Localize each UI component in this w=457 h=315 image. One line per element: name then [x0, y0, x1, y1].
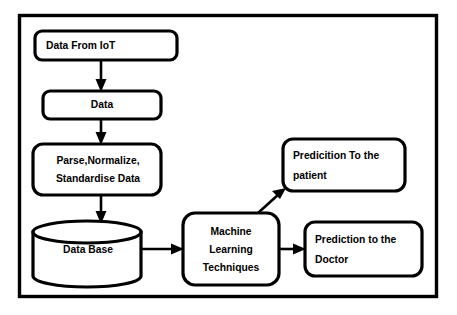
node-prediction-doctor-label-line2: Doctor [315, 254, 348, 265]
node-prediction-patient-shape [283, 139, 405, 191]
node-data-from-iot-label: Data From IoT [46, 40, 116, 51]
node-database[interactable]: Data Base [33, 221, 141, 287]
node-ml-techniques-label-line1: Machine [210, 226, 251, 237]
flowchart-canvas: Data From IoT Data Parse,Normalize, Stan… [0, 0, 457, 315]
node-prediction-patient-label-line2: patient [293, 170, 327, 181]
node-prediction-patient-label-line1: Predicition To the [293, 150, 379, 161]
node-prediction-patient[interactable]: Predicition To the patient [283, 139, 405, 191]
node-ml-techniques-label-line3: Techniques [203, 262, 260, 273]
node-parse-normalize-shape [33, 144, 161, 195]
flowchart-diagram: Data From IoT Data Parse,Normalize, Stan… [0, 0, 457, 315]
node-data-from-iot[interactable]: Data From IoT [35, 31, 177, 60]
node-parse-normalize-label-line1: Parse,Normalize, [57, 155, 140, 166]
node-prediction-doctor[interactable]: Prediction to the Doctor [305, 222, 422, 276]
node-data[interactable]: Data [43, 91, 161, 119]
node-parse-normalize-label-line2: Standardise Data [56, 173, 140, 184]
node-database-cylinder-top [33, 221, 141, 243]
node-database-label: Data Base [63, 244, 113, 255]
node-ml-techniques-label-line2: Learning [209, 244, 252, 255]
node-prediction-doctor-shape [305, 222, 422, 276]
node-ml-techniques[interactable]: Machine Learning Techniques [183, 213, 279, 285]
node-data-label: Data [91, 99, 114, 110]
node-prediction-doctor-label-line1: Prediction to the [315, 234, 397, 245]
node-parse-normalize[interactable]: Parse,Normalize, Standardise Data [33, 144, 161, 195]
